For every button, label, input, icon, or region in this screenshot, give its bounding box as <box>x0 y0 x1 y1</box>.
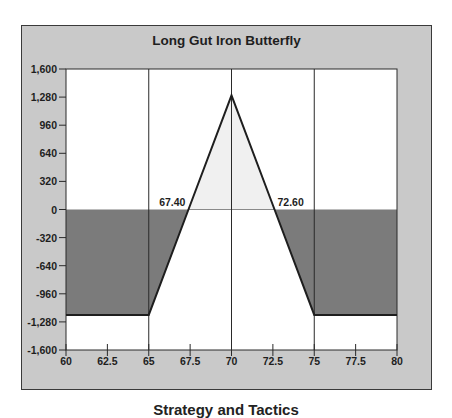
x-tick-label: 60 <box>60 355 72 367</box>
y-tick-label: -960 <box>36 288 57 300</box>
x-tick-label: 72.5 <box>263 355 284 367</box>
y-tick-label: 640 <box>39 147 57 159</box>
y-tick-label: 0 <box>51 204 57 216</box>
y-tick-label: -1,280 <box>27 316 57 328</box>
x-tick-label: 77.5 <box>345 355 366 367</box>
x-tick-label: 70 <box>226 355 238 367</box>
y-tick-label: 960 <box>39 119 57 131</box>
breakeven-label: 72.60 <box>278 196 304 208</box>
y-tick-label: 1,600 <box>31 63 57 75</box>
x-tick-label: 80 <box>391 355 403 367</box>
x-tick-label: 75 <box>308 355 320 367</box>
y-tick-label: 320 <box>39 175 57 187</box>
y-tick-label: -1,600 <box>27 344 57 356</box>
y-tick-label: 1,280 <box>31 91 57 103</box>
y-tick-label: -640 <box>36 260 57 272</box>
y-tick-label: -320 <box>36 232 57 244</box>
x-tick-label: 62.5 <box>97 355 118 367</box>
breakeven-label: 67.40 <box>159 196 185 208</box>
x-tick-label: 67.5 <box>180 355 201 367</box>
page-caption: Strategy and Tactics <box>0 401 452 418</box>
x-tick-label: 65 <box>143 355 155 367</box>
